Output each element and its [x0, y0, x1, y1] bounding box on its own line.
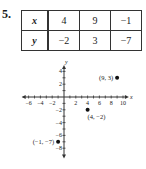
- y-tick-label: −4: [56, 120, 62, 126]
- y-tick-label: 2: [59, 81, 62, 87]
- x-tick-label: −6: [25, 100, 31, 106]
- point-label: (−1, −7): [33, 138, 54, 146]
- y-tick-label: −6: [56, 132, 62, 138]
- x-tick-label: 4: [86, 100, 89, 106]
- x-axis-label: x: [129, 94, 133, 100]
- x-tick-label: 2: [74, 100, 77, 106]
- y-tick-label: −8: [56, 145, 62, 151]
- y-arrow-down-icon: [62, 155, 66, 159]
- point-label: (9, 3): [99, 74, 113, 82]
- x-arrow-right-icon: [125, 95, 129, 99]
- x-tick-label: 6: [98, 100, 101, 106]
- point-label: (4, −2): [88, 113, 106, 121]
- x-tick-label: 8: [110, 100, 113, 106]
- x-tick-label: −4: [37, 100, 43, 106]
- x-tick-label: −2: [49, 100, 55, 106]
- y-tick-label: 4: [59, 68, 62, 74]
- data-point: [56, 140, 60, 144]
- data-point: [115, 76, 119, 80]
- x-tick-label: 10: [120, 100, 126, 106]
- coordinate-plane: −6−4−224681042−2−4−6−8xy(4, −2)(9, 3)(−1…: [0, 0, 146, 169]
- x-arrow-left-icon: [22, 95, 26, 99]
- y-tick-label: −2: [56, 107, 62, 113]
- data-point: [86, 108, 90, 112]
- y-axis-label: y: [64, 59, 68, 65]
- y-arrow-up-icon: [62, 65, 66, 69]
